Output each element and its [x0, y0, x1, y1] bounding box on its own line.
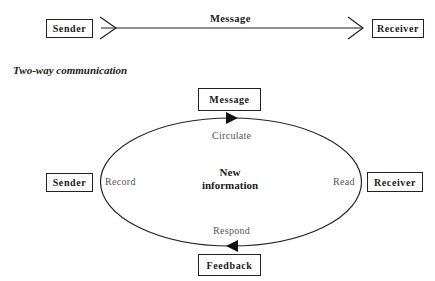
sender-label: Sender — [53, 23, 87, 34]
arrow-left-icon — [226, 240, 238, 252]
read-label: Read — [333, 176, 355, 187]
arrow-right-icon — [226, 112, 238, 124]
one-way-sender-box: Sender — [46, 19, 93, 38]
feedback-box-label: Feedback — [207, 260, 253, 271]
respond-label: Respond — [213, 225, 250, 236]
section-title: Two-way communication — [13, 64, 127, 76]
record-label: Record — [105, 176, 136, 187]
message-label: Message — [210, 13, 251, 24]
receiver-label: Receiver — [377, 23, 419, 34]
center-text-line1: New — [200, 166, 260, 179]
two-way-sender-box: Sender — [46, 173, 93, 192]
new-information-text: New information — [200, 166, 260, 192]
center-text-line2: information — [200, 179, 260, 192]
sender-box-label: Sender — [53, 177, 87, 188]
two-way-receiver-box: Receiver — [367, 172, 423, 192]
message-box: Message — [198, 88, 261, 111]
one-way-receiver-box: Receiver — [372, 19, 424, 38]
message-box-label: Message — [209, 94, 249, 105]
circulate-label: Circulate — [212, 130, 251, 141]
feedback-box: Feedback — [198, 254, 261, 276]
receiver-box-label: Receiver — [374, 177, 416, 188]
